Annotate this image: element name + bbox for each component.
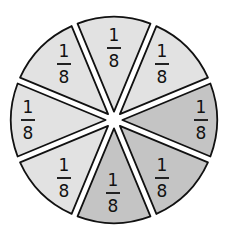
denominator: 8 bbox=[52, 182, 76, 200]
fraction-label-top-left: 1 8 bbox=[52, 42, 76, 86]
fraction-bar bbox=[21, 119, 35, 121]
denominator: 8 bbox=[16, 124, 40, 142]
numerator: 1 bbox=[150, 42, 174, 60]
fraction-label-top-right: 1 8 bbox=[150, 42, 174, 86]
fraction-bar bbox=[194, 119, 208, 121]
denominator: 8 bbox=[101, 197, 125, 215]
fraction-bar bbox=[106, 192, 120, 194]
denominator: 8 bbox=[150, 68, 174, 86]
fraction-bar bbox=[155, 177, 169, 179]
fraction-label-bottom-right: 1 8 bbox=[150, 156, 174, 200]
fraction-label-bottom: 1 8 bbox=[101, 171, 125, 215]
numerator: 1 bbox=[150, 156, 174, 174]
fraction-bar bbox=[57, 177, 71, 179]
fraction-bar bbox=[57, 63, 71, 65]
fraction-bar bbox=[155, 63, 169, 65]
numerator: 1 bbox=[101, 171, 125, 189]
numerator: 1 bbox=[52, 42, 76, 60]
denominator: 8 bbox=[102, 52, 126, 70]
fraction-bar bbox=[107, 47, 121, 49]
numerator: 1 bbox=[189, 98, 213, 116]
fraction-label-right: 1 8 bbox=[189, 98, 213, 142]
denominator: 8 bbox=[52, 68, 76, 86]
fraction-label-top: 1 8 bbox=[102, 26, 126, 70]
numerator: 1 bbox=[102, 26, 126, 44]
fraction-label-bottom-left: 1 8 bbox=[52, 156, 76, 200]
denominator: 8 bbox=[189, 124, 213, 142]
fraction-label-left: 1 8 bbox=[16, 98, 40, 142]
numerator: 1 bbox=[52, 156, 76, 174]
numerator: 1 bbox=[16, 98, 40, 116]
denominator: 8 bbox=[150, 182, 174, 200]
